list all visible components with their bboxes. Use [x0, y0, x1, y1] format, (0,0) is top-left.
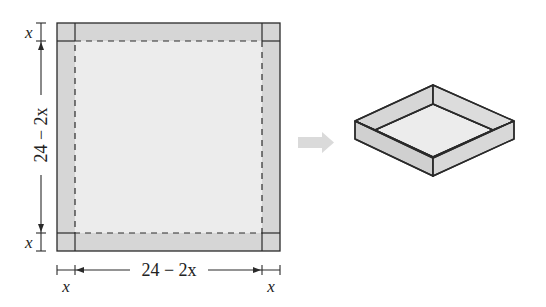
right-arrow-icon	[298, 132, 334, 153]
horizontal-left-x-label: x	[61, 277, 70, 296]
sheet-base	[75, 41, 262, 233]
vertical-middle-label: 24 − 2x	[31, 107, 51, 162]
folded-box	[355, 85, 514, 176]
horizontal-middle-label: 24 − 2x	[141, 260, 196, 280]
open-box-diagram: x 24 − 2x x 24 − 2x x x	[0, 0, 546, 307]
vertical-top-x-label: x	[24, 23, 33, 42]
horizontal-right-x-label: x	[266, 277, 275, 296]
vertical-bottom-x-label: x	[24, 233, 33, 252]
sheet	[57, 23, 280, 251]
